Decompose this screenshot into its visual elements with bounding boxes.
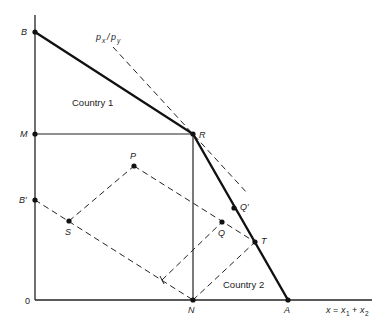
x-axis-label: x = x 1 + x 2	[325, 305, 369, 317]
point-B-prime	[32, 197, 37, 202]
x-axis-label-x2-sub: 2	[365, 310, 369, 317]
label-B-prime: B′	[19, 195, 27, 205]
point-A	[285, 297, 290, 302]
label-N: N	[188, 305, 195, 315]
label-country-2: Country 2	[223, 279, 264, 290]
point-B	[32, 29, 37, 34]
label-origin: 0	[25, 296, 30, 306]
x-axis-label-eq: =	[333, 305, 338, 315]
label-S: S	[65, 227, 71, 237]
price-label-x-sub: x	[101, 37, 106, 44]
price-label-p: p	[95, 32, 101, 42]
price-label-p2: p	[110, 32, 116, 42]
label-A: A	[283, 305, 290, 315]
price-tangent-line	[113, 47, 248, 194]
point-N	[190, 297, 195, 302]
price-label-y-sub: y	[116, 37, 121, 45]
point-P	[131, 163, 136, 168]
point-S	[66, 218, 71, 223]
ppf-diagram: B M B′ 0 R N A P S Q Q′ T Country 1 Coun…	[0, 0, 392, 328]
point-Q	[219, 219, 224, 224]
x-axis-label-x1-sub: 1	[346, 310, 350, 317]
label-Q: Q	[218, 228, 225, 238]
x-axis-label-x: x	[325, 305, 331, 315]
label-T: T	[261, 236, 268, 246]
p-t-line	[134, 166, 255, 242]
label-Q-prime: Q′	[240, 202, 249, 212]
x-axis-label-plus: +	[352, 305, 357, 315]
point-T	[252, 239, 257, 244]
label-B: B	[21, 27, 27, 37]
label-R: R	[199, 130, 206, 140]
n-t-line	[193, 242, 255, 300]
point-Q-prime	[231, 205, 236, 210]
frontier-line	[35, 32, 288, 300]
point-R	[190, 131, 195, 136]
label-P: P	[130, 151, 136, 161]
label-M: M	[20, 129, 28, 139]
tick-q-line	[162, 222, 222, 280]
tick-mark	[160, 276, 164, 284]
s-p-line	[69, 166, 134, 221]
price-ratio-label: p x / p y	[95, 32, 121, 45]
label-country-1: Country 1	[72, 97, 113, 108]
b-prime-n-line	[35, 200, 193, 300]
point-M	[32, 131, 37, 136]
